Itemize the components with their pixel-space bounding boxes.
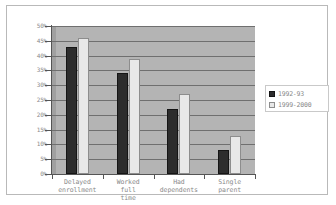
- bar-chart-figure: 50%45%40%35%30%25%20%15%10%5%0% Delayede…: [0, 0, 336, 205]
- y-axis-tick-label: 0%: [19, 171, 47, 177]
- plot-area: [52, 26, 255, 174]
- y-axis-tick-mark: [45, 100, 51, 101]
- bar: [66, 47, 77, 174]
- y-axis-tick-label: 40%: [19, 53, 47, 59]
- legend-label: 1992-93: [278, 91, 304, 98]
- y-axis-tick-mark: [45, 144, 51, 145]
- y-axis-tick-label: 30%: [19, 82, 47, 88]
- bar: [78, 38, 89, 174]
- x-axis-tick-mark: [52, 175, 53, 179]
- x-axis-category-labels: DelayedenrollmentWorkedfulltimeHaddepend…: [52, 178, 255, 204]
- y-axis-tick-mark: [45, 41, 51, 42]
- y-axis-tick-label: 10%: [19, 141, 47, 147]
- y-axis-tick-mark: [45, 159, 51, 160]
- y-axis-tick-mark: [45, 130, 51, 131]
- chart-frame: 50%45%40%35%30%25%20%15%10%5%0% Delayede…: [6, 5, 328, 195]
- x-axis-tick-mark: [204, 175, 205, 179]
- bar: [129, 59, 140, 174]
- legend-swatch-icon: [269, 102, 275, 108]
- y-axis-tick-mark: [45, 85, 51, 86]
- x-axis-tick-mark: [103, 175, 104, 179]
- bar: [218, 150, 229, 174]
- y-axis-tick-label: 5%: [19, 156, 47, 162]
- legend-label: 1999-2000: [278, 102, 311, 109]
- bar: [179, 94, 190, 174]
- x-axis-tick-mark: [154, 175, 155, 179]
- y-axis-tick-mark: [45, 174, 51, 175]
- bar: [167, 109, 178, 174]
- y-axis-tick-labels: 50%45%40%35%30%25%20%15%10%5%0%: [13, 6, 47, 196]
- legend-entry: 1999-2000: [269, 100, 325, 110]
- bar: [117, 73, 128, 174]
- y-axis-tick-label: 50%: [19, 23, 47, 29]
- y-axis-tick-label: 15%: [19, 127, 47, 133]
- legend-entry: 1992-93: [269, 89, 325, 99]
- y-axis-tick-label: 20%: [19, 112, 47, 118]
- chart-legend: 1992-931999-2000: [265, 85, 329, 112]
- legend-swatch-icon: [269, 91, 275, 97]
- y-axis-tick-label: 45%: [19, 38, 47, 44]
- y-axis-tick-mark: [45, 26, 51, 27]
- y-axis-tick-mark: [45, 70, 51, 71]
- y-axis-tick-mark: [45, 115, 51, 116]
- bar: [230, 136, 241, 174]
- x-axis-tick-mark: [255, 175, 256, 179]
- y-axis-tick-mark: [45, 56, 51, 57]
- y-axis-tick-label: 25%: [19, 97, 47, 103]
- y-axis-tick-label: 35%: [19, 67, 47, 73]
- x-axis-category-label: Singleparent: [200, 178, 259, 194]
- gridline: [52, 26, 255, 27]
